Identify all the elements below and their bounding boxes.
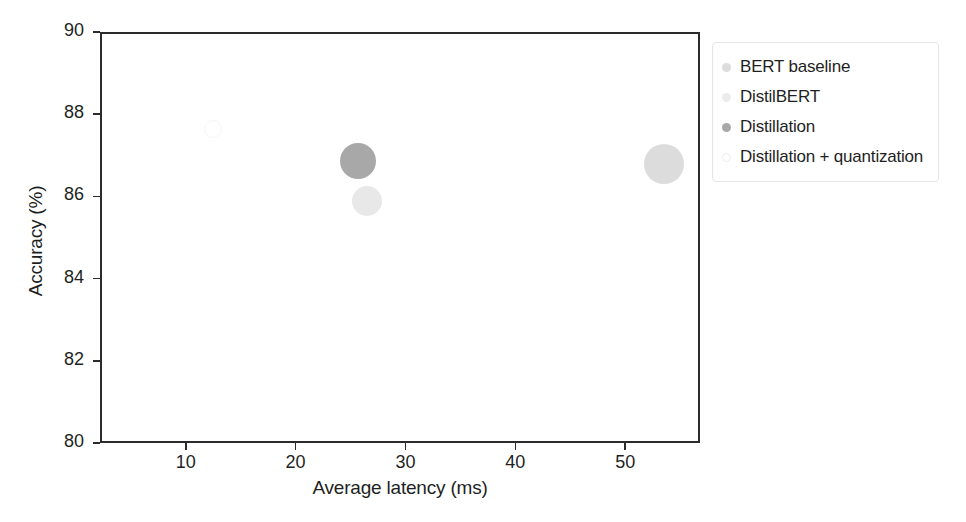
data-point-bubble xyxy=(644,144,684,184)
y-tick-mark xyxy=(93,196,100,198)
legend-item-label: DistilBERT xyxy=(740,87,820,107)
y-tick-mark xyxy=(93,31,100,33)
legend-item[interactable]: Distillation + quantization xyxy=(722,142,928,172)
x-axis-title: Average latency (ms) xyxy=(0,477,800,499)
x-tick-mark xyxy=(405,443,407,450)
legend-item[interactable]: Distillation xyxy=(722,112,928,142)
legend-marker-icon xyxy=(722,123,731,132)
legend-item-label: Distillation xyxy=(740,117,815,137)
x-tick-label: 50 xyxy=(595,452,655,473)
chart-legend: BERT baselineDistilBERTDistillationDisti… xyxy=(712,42,939,182)
legend-item-label: BERT baseline xyxy=(740,57,850,77)
legend-item[interactable]: DistilBERT xyxy=(722,82,928,112)
legend-item[interactable]: BERT baseline xyxy=(722,52,928,82)
legend-marker-icon xyxy=(722,63,731,72)
x-tick-label: 40 xyxy=(485,452,545,473)
x-tick-mark xyxy=(515,443,517,450)
y-tick-mark xyxy=(93,113,100,115)
x-tick-mark xyxy=(295,443,297,450)
y-tick-label: 90 xyxy=(0,20,84,41)
legend-marker-icon xyxy=(722,93,731,102)
x-tick-mark xyxy=(185,443,187,450)
y-tick-mark xyxy=(93,360,100,362)
x-tick-label: 10 xyxy=(156,452,216,473)
data-point-bubble xyxy=(204,120,222,138)
y-tick-label: 80 xyxy=(0,431,84,452)
y-tick-mark xyxy=(93,278,100,280)
legend-item-label: Distillation + quantization xyxy=(740,147,923,167)
plot-area xyxy=(100,32,700,443)
y-tick-label: 82 xyxy=(0,349,84,370)
x-tick-mark xyxy=(624,443,626,450)
y-tick-label: 88 xyxy=(0,102,84,123)
y-axis-title: Accuracy (%) xyxy=(25,131,47,351)
data-point-bubble xyxy=(352,186,382,216)
x-tick-label: 20 xyxy=(266,452,326,473)
legend-marker-icon xyxy=(722,153,731,162)
scatter-chart-figure: 1020304050 808284868890 Average latency … xyxy=(0,0,966,522)
x-tick-label: 30 xyxy=(375,452,435,473)
y-tick-mark xyxy=(93,442,100,444)
